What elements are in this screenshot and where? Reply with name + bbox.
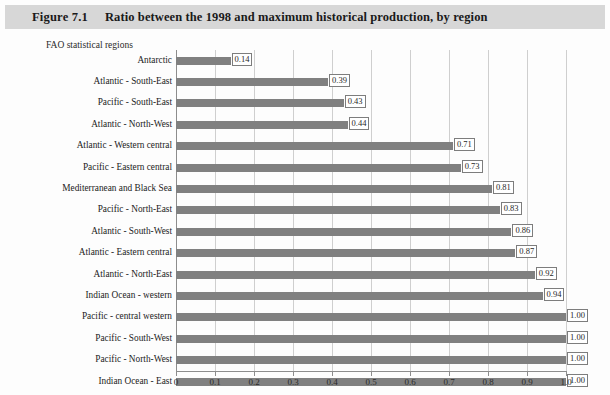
x-axis-tick-label: 0.9 — [521, 377, 532, 387]
bar-value-label: 0.81 — [493, 181, 514, 194]
bar-row[interactable]: 0.94 — [176, 285, 566, 306]
plot-frame: FAO statistical regions 0.140.390.430.44… — [5, 29, 605, 390]
bar-value-label: 0.73 — [462, 160, 483, 173]
category-label: Pacific - Eastern central — [83, 162, 172, 172]
bar[interactable] — [176, 206, 500, 214]
bar-value-label: 0.43 — [345, 95, 366, 108]
bar-value-label: 0.94 — [544, 288, 565, 301]
bar-row[interactable]: 0.39 — [176, 71, 566, 92]
x-axis-tick — [449, 371, 450, 376]
x-axis-tick-label: 0.4 — [326, 377, 337, 387]
x-axis-tick-label: 0.1 — [209, 377, 220, 387]
category-label: Atlantic - Eastern central — [79, 247, 172, 257]
bar[interactable] — [176, 335, 566, 343]
x-axis-tick — [215, 371, 216, 376]
x-axis-tick-label: 1.0 — [560, 377, 571, 387]
bar[interactable] — [176, 292, 543, 300]
x-axis-tick-label: 0.6 — [404, 377, 415, 387]
category-label: Pacific - North-East — [98, 204, 172, 214]
x-axis-tick — [566, 371, 567, 376]
bar-row[interactable]: 0.73 — [176, 157, 566, 178]
gridline — [566, 50, 567, 371]
category-label: Atlantic - North-West — [91, 119, 172, 129]
bar-row[interactable]: 0.87 — [176, 243, 566, 264]
bar-row[interactable]: 0.71 — [176, 136, 566, 157]
bar-row[interactable]: 0.83 — [176, 200, 566, 221]
bar-value-label: 1.00 — [567, 331, 588, 344]
x-axis-tick-label: 0.8 — [482, 377, 493, 387]
category-label: Atlantic - Western central — [77, 140, 172, 150]
figure-container: Figure 7.1 Ratio between the 1998 and ma… — [0, 0, 610, 395]
x-axis-tick-label: 0.5 — [365, 377, 376, 387]
bar-row[interactable]: 0.92 — [176, 264, 566, 285]
bar-value-label: 1.00 — [567, 352, 588, 365]
plot-area: 0.140.390.430.440.710.730.810.830.860.87… — [176, 50, 566, 371]
bar[interactable] — [176, 78, 328, 86]
x-axis-tick — [410, 371, 411, 376]
bar[interactable] — [176, 249, 515, 257]
figure-title: Ratio between the 1998 and maximum histo… — [105, 10, 488, 25]
bar[interactable] — [176, 313, 566, 321]
category-label: Indian Ocean - western — [86, 290, 172, 300]
x-axis-tick-label: 0.2 — [248, 377, 259, 387]
x-axis-tick — [176, 371, 177, 376]
category-label: Antarctic — [137, 55, 172, 65]
category-label: Mediterranean and Black Sea — [62, 183, 172, 193]
category-label: Atlantic - North-East — [94, 269, 172, 279]
figure-number: Figure 7.1 — [32, 10, 88, 25]
bar-value-label: 0.14 — [232, 53, 253, 66]
bar-value-label: 0.92 — [536, 267, 557, 280]
category-label: Atlantic - South-East — [94, 76, 173, 86]
bar-value-label: 0.87 — [516, 245, 537, 258]
x-axis-tick-label: 0.7 — [443, 377, 454, 387]
x-axis-tick — [527, 371, 528, 376]
bar-row[interactable]: 0.81 — [176, 178, 566, 199]
bar-row[interactable]: 1.00 — [176, 328, 566, 349]
bar-value-label: 0.83 — [501, 202, 522, 215]
x-axis-tick — [371, 371, 372, 376]
bar[interactable] — [176, 57, 231, 65]
bar[interactable] — [176, 164, 461, 172]
x-axis-tick — [254, 371, 255, 376]
bar-row[interactable]: 0.86 — [176, 221, 566, 242]
figure-title-bar: Figure 7.1 Ratio between the 1998 and ma… — [5, 5, 605, 29]
category-label: Atlantic - South-West — [91, 226, 172, 236]
bar-row[interactable]: 1.00 — [176, 350, 566, 371]
category-label: Pacific - South-East — [98, 97, 172, 107]
bar-value-label: 0.86 — [512, 224, 533, 237]
x-axis-tick — [293, 371, 294, 376]
bar-row[interactable]: 0.43 — [176, 93, 566, 114]
bar-row[interactable]: 0.44 — [176, 114, 566, 135]
category-label: Pacific - central western — [82, 311, 172, 321]
x-axis-tick-label: 0 — [174, 377, 179, 387]
y-axis-title: FAO statistical regions — [46, 40, 133, 50]
bar-value-label: 0.71 — [454, 138, 475, 151]
bar-value-label: 1.00 — [567, 309, 588, 322]
bar[interactable] — [176, 121, 348, 129]
x-axis-tick — [488, 371, 489, 376]
bar-value-label: 0.44 — [349, 117, 370, 130]
bar[interactable] — [176, 271, 535, 279]
bar[interactable] — [176, 142, 453, 150]
category-label: Indian Ocean - East — [98, 376, 172, 386]
category-label: Pacific - South-West — [95, 333, 172, 343]
bar-value-label: 0.39 — [329, 74, 350, 87]
category-label: Pacific - North-West — [95, 354, 172, 364]
x-axis-tick — [332, 371, 333, 376]
bar[interactable] — [176, 99, 344, 107]
bar[interactable] — [176, 356, 566, 364]
bar[interactable] — [176, 228, 511, 236]
x-axis-tick-label: 0.3 — [287, 377, 298, 387]
bar-row[interactable]: 0.14 — [176, 50, 566, 71]
bar[interactable] — [176, 185, 492, 193]
bar-row[interactable]: 1.00 — [176, 307, 566, 328]
